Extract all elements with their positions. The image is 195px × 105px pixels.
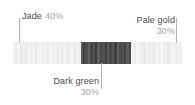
callout-jade-percent: 40% bbox=[45, 11, 63, 21]
bar-segment-pale-gold[interactable] bbox=[131, 42, 182, 64]
callout-jade: Jade40% bbox=[22, 11, 63, 22]
callout-pale-gold: Pale gold 30% bbox=[137, 15, 175, 36]
color-proportion-chart: Jade40% Pale gold 30% Dark green 30% bbox=[0, 0, 195, 105]
color-proportion-bar bbox=[13, 42, 182, 64]
callout-dark-green: Dark green 30% bbox=[19, 76, 99, 97]
bar-segment-dark-green[interactable] bbox=[81, 42, 132, 64]
leader-line-dark-green bbox=[101, 63, 102, 89]
leader-line-pale-gold bbox=[176, 18, 177, 43]
bar-segment-jade[interactable] bbox=[13, 42, 81, 64]
callout-pale-gold-name: Pale gold bbox=[137, 15, 175, 26]
callout-dark-green-name: Dark green bbox=[19, 76, 99, 87]
bar-stripe bbox=[179, 42, 181, 64]
callout-dark-green-percent: 30% bbox=[19, 87, 99, 98]
leader-line-jade bbox=[19, 18, 20, 43]
callout-jade-name: Jade bbox=[22, 11, 42, 21]
callout-pale-gold-percent: 30% bbox=[137, 26, 175, 37]
